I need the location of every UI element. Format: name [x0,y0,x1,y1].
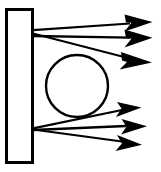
ray-1-line [33,24,130,31]
diagram-canvas [0,0,161,172]
ray-5-line [33,126,126,130]
ray-6-arrowhead-triangle-icon [116,135,143,151]
upper-ray-group [33,15,153,70]
circle-shape [46,55,108,117]
optics-ray-diagram [0,0,161,172]
ray-3-arrowhead-barbed-icon [120,52,153,70]
wall-rectangle [7,10,33,163]
ray-6-line [33,130,122,142]
lower-ray-group [33,102,147,151]
